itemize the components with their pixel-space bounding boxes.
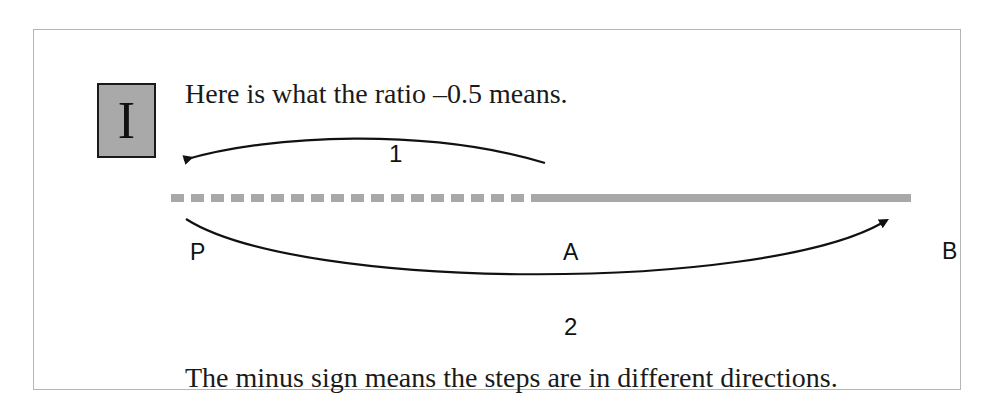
caption-bottom-text: The minus sign means the steps are in di… bbox=[185, 362, 838, 394]
figure-frame: I Here is what the ratio –0.5 means. The… bbox=[33, 29, 961, 390]
point-label-b: B bbox=[942, 238, 957, 265]
roman-numeral-badge: I bbox=[97, 83, 156, 158]
roman-numeral-label: I bbox=[118, 95, 135, 147]
point-label-p: P bbox=[190, 239, 205, 266]
point-label-a: A bbox=[563, 239, 578, 266]
step-label-one: 1 bbox=[389, 140, 402, 168]
step-label-two: 2 bbox=[564, 313, 577, 341]
figure-page: I Here is what the ratio –0.5 means. The… bbox=[0, 0, 993, 410]
caption-top-text: Here is what the ratio –0.5 means. bbox=[185, 78, 568, 110]
